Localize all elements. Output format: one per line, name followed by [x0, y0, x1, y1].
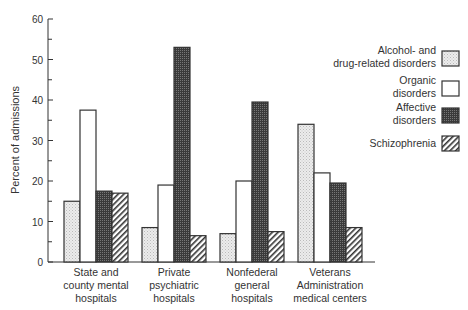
legend-label: drug-related disorders — [333, 57, 436, 69]
x-category-label: Nonfederal — [226, 266, 277, 278]
bar — [80, 110, 96, 262]
bar — [64, 201, 80, 262]
x-category-label: general — [234, 279, 269, 291]
bar — [220, 234, 236, 262]
legend-swatch — [442, 81, 459, 96]
legend-label: Organic — [399, 74, 436, 86]
y-tick-label: 50 — [32, 55, 44, 66]
bar — [268, 232, 284, 262]
x-category-label: hospitals — [75, 292, 116, 304]
chart-root: 0102030405060 Percent of admissions Stat… — [0, 0, 468, 310]
bar — [346, 228, 362, 262]
bar-group — [298, 124, 362, 262]
bar-group — [220, 102, 284, 262]
legend-item: Alcohol- anddrug-related disorders — [333, 44, 459, 69]
legend-label: Alcohol- and — [378, 44, 437, 56]
x-category-label: medical centers — [293, 292, 367, 304]
legend: Alcohol- anddrug-related disordersOrgani… — [333, 44, 459, 151]
x-category-label: hospitals — [231, 292, 272, 304]
y-axis-label: Percent of admissions — [9, 85, 21, 194]
y-tick-label: 30 — [32, 136, 44, 147]
bar — [112, 193, 128, 262]
legend-item: Schizophrenia — [369, 136, 459, 151]
y-tick-label: 20 — [32, 176, 44, 187]
x-category-label: Administration — [297, 279, 364, 291]
bar-groups — [64, 47, 362, 262]
legend-label: Schizophrenia — [369, 137, 436, 149]
x-category-label: Private — [158, 266, 191, 278]
bar — [314, 173, 330, 262]
bar-group — [142, 47, 206, 262]
y-tick-label: 40 — [32, 95, 44, 106]
x-category-label: psychiatric — [149, 279, 199, 291]
legend-item: Organicdisorders — [393, 74, 459, 99]
legend-label: disorders — [393, 114, 436, 126]
x-category-label: Veterans — [309, 266, 350, 278]
legend-swatch — [442, 136, 459, 151]
legend-label: disorders — [393, 87, 436, 99]
legend-swatch — [442, 51, 459, 66]
x-category-label: State and — [74, 266, 119, 278]
bar — [158, 185, 174, 262]
bar — [298, 124, 314, 262]
bar — [174, 47, 190, 262]
y-tick-label: 60 — [32, 14, 44, 25]
x-category-label: hospitals — [153, 292, 194, 304]
legend-item: Affectivedisorders — [393, 101, 459, 126]
bar — [190, 236, 206, 262]
bar-group — [64, 110, 128, 262]
bar — [252, 102, 268, 262]
legend-swatch — [442, 108, 459, 123]
y-tick-label: 0 — [37, 257, 43, 268]
bar — [236, 181, 252, 262]
legend-label: Affective — [396, 101, 436, 113]
grouped-bar-chart: 0102030405060 Percent of admissions Stat… — [0, 0, 468, 310]
bar — [142, 228, 158, 262]
x-category-label: county mental — [63, 279, 128, 291]
x-axis-category-labels: State andcounty mentalhospitalsPrivateps… — [63, 266, 366, 304]
y-tick-label: 10 — [32, 217, 44, 228]
bar — [96, 191, 112, 262]
bar — [330, 183, 346, 262]
